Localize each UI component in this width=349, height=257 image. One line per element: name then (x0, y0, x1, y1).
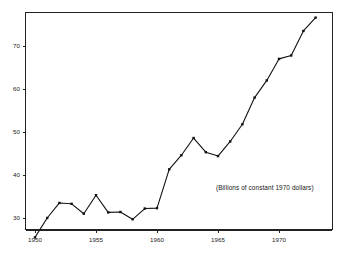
data-point-marker (83, 213, 85, 215)
y-axis-tick-label: 50 (2, 128, 20, 135)
x-axis-tick-label: 1965 (206, 236, 230, 243)
data-point-marker (217, 155, 219, 157)
x-axis-tick-label: 1970 (267, 236, 291, 243)
data-point-marker (241, 123, 243, 125)
data-point-marker (205, 151, 207, 153)
data-point-marker (156, 207, 158, 209)
data-point-marker (119, 211, 121, 213)
axis-ticks (23, 46, 280, 233)
data-point-marker (290, 54, 292, 56)
data-point-marker (107, 211, 109, 213)
y-axis-tick-label: 30 (2, 214, 20, 221)
data-point-marker (278, 58, 280, 60)
data-point-marker (131, 218, 133, 220)
chart-annotation: (Billions of constant 1970 dollars) (216, 184, 314, 192)
chart-figure: 3040506070 19501955196019651970 (Billion… (0, 0, 349, 257)
data-point-marker (46, 217, 48, 219)
data-point-marker (180, 154, 182, 156)
data-point-marker (70, 203, 72, 205)
data-point-marker (95, 194, 97, 196)
data-series-line (35, 18, 316, 238)
y-axis-tick-label: 70 (2, 42, 20, 49)
y-axis-tick-label: 40 (2, 171, 20, 178)
data-point-marker (302, 30, 304, 32)
data-point-marker (253, 96, 255, 98)
x-axis-tick-label: 1960 (145, 236, 169, 243)
x-axis-tick-label: 1950 (23, 236, 47, 243)
y-axis-tick-label: 60 (2, 85, 20, 92)
axes-frame (26, 12, 333, 230)
data-point-marker (168, 168, 170, 170)
data-point-marker (144, 207, 146, 209)
data-point-marker (229, 140, 231, 142)
data-point-markers (34, 16, 317, 238)
data-point-marker (192, 137, 194, 139)
x-axis-tick-label: 1955 (84, 236, 108, 243)
data-point-marker (58, 202, 60, 204)
data-point-marker (314, 16, 316, 18)
chart-plot-area (0, 0, 349, 257)
data-point-marker (266, 79, 268, 81)
